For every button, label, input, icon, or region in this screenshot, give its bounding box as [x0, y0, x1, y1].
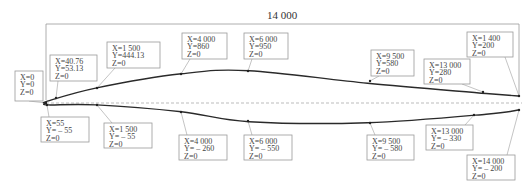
profile-point: [46, 104, 48, 106]
coordinate-label-l-4000: X=4 000Y= – 260Z=0: [179, 135, 227, 161]
coordinate-label-l-9500: X=9 500Y= – 580Z=0: [367, 135, 414, 161]
leader-line: [462, 84, 483, 92]
leader-line: [507, 110, 519, 155]
label-line: Z=0: [372, 152, 385, 161]
profile-point: [96, 104, 98, 106]
label-line: Z=0: [472, 49, 485, 58]
leader-line: [181, 112, 187, 135]
label-line: Z=0: [249, 152, 262, 161]
profile-point: [247, 70, 249, 72]
label-line: Z=0: [109, 140, 122, 149]
leader-line: [248, 59, 252, 71]
label-line: Z=0: [429, 76, 442, 85]
coordinate-label-origin: X=0Y=0Z=0: [15, 71, 43, 101]
coordinate-label-u-6000: X=6 000Y=950Z=0: [244, 33, 288, 59]
leader-line: [248, 121, 252, 135]
leader-line: [97, 105, 112, 123]
airfoil-profile-diagram: 14 000 X=0Y=0Z=0X=40.76Y=53.13Z=0X=1 500…: [0, 0, 531, 190]
coordinate-label-l-14000: X=14 000Y= – 200Z=0: [467, 155, 515, 181]
coordinate-label-u-13000: X=13 000Y=280Z=0: [424, 59, 470, 85]
profile-point: [180, 111, 182, 113]
dimension-label: 14 000: [267, 9, 298, 21]
coordinate-label-l-55: X=55Y= – 55Z=0: [41, 117, 89, 143]
label-line: Z=0: [431, 142, 444, 151]
coordinate-labels: X=0Y=0Z=0X=40.76Y=53.13Z=0X=1 500Y=444.1…: [15, 32, 515, 181]
label-line: Z=0: [55, 72, 68, 81]
label-line: Z=0: [46, 134, 59, 143]
profile-point: [482, 91, 484, 93]
coordinate-label-u-9500: X=9 500Y=580Z=0: [371, 50, 414, 76]
leader-line: [56, 81, 58, 98]
profile-point: [369, 122, 371, 124]
label-line: Z=0: [184, 152, 197, 161]
coordinate-label-u-40: X=40.76Y=53.13Z=0: [50, 55, 97, 81]
leader-line: [505, 57, 519, 96]
leader-line: [370, 76, 379, 81]
coordinate-label-u-1500: X=1 500Y=444.13Z=0: [107, 42, 160, 68]
leader-line: [181, 59, 190, 74]
label-line: Z=0: [187, 50, 200, 59]
label-line: Z=0: [249, 50, 262, 59]
coordinate-label-u-4000: X=4 000Y=860Z=0: [182, 33, 227, 59]
label-line: Z=0: [20, 88, 33, 97]
label-line: Z=0: [112, 59, 125, 68]
leader-line: [47, 105, 49, 117]
profile-point: [180, 73, 182, 75]
profile-point: [96, 87, 98, 89]
profile-point: [369, 80, 371, 82]
profile-point: [518, 109, 520, 111]
coordinate-label-l-1500: X=1 500Y= – 55Z=0: [104, 123, 152, 149]
label-line: Z=0: [472, 172, 485, 181]
coordinate-label-u-14000: X=1 400Y=200Z=0: [467, 32, 513, 58]
profile-point: [518, 95, 520, 97]
coordinate-label-l-13000: X=13 000Y= – 330Z=0: [426, 125, 473, 151]
leader-line: [370, 123, 375, 135]
coordinate-label-l-6000: X=6 000Y= – 550Z=0: [244, 135, 292, 161]
profile-point: [55, 97, 57, 99]
profile-point: [473, 114, 475, 116]
profile-point: [247, 120, 249, 122]
lower-surface-curve: [44, 103, 520, 123]
label-line: Z=0: [376, 67, 389, 76]
